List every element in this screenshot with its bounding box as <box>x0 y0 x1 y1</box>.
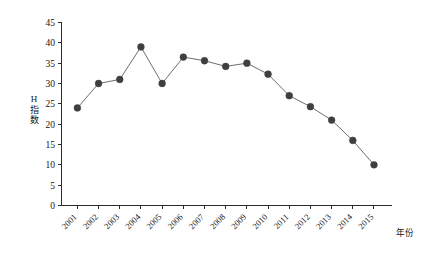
x-tick-label: 2012 <box>293 212 312 231</box>
x-tick-label: 2010 <box>250 212 269 231</box>
y-tick-label: 45 <box>46 18 56 28</box>
y-tick-label: 40 <box>46 38 56 48</box>
data-point-marker <box>371 161 378 168</box>
data-series <box>74 44 377 169</box>
x-tick-label: 2004 <box>123 211 143 231</box>
data-point-marker <box>222 63 229 70</box>
x-tick-label: 2011 <box>272 212 291 231</box>
data-point-marker <box>243 60 250 67</box>
data-point-marker <box>349 137 356 144</box>
data-point-marker <box>95 80 102 87</box>
x-tick-label: 2007 <box>187 211 207 231</box>
x-tick-label: 2001 <box>60 212 79 231</box>
y-tick-label: 15 <box>46 140 56 150</box>
data-point-marker <box>74 105 81 112</box>
x-tick-label: 2008 <box>208 212 227 231</box>
line-chart-plot: 051015202530354045 200120022003200420052… <box>0 0 432 258</box>
y-axis: 051015202530354045 <box>46 18 62 211</box>
y-tick-label: 5 <box>50 181 55 191</box>
y-tick-label: 0 <box>50 201 55 211</box>
data-point-marker <box>116 76 123 83</box>
x-tick-label: 2005 <box>144 212 163 231</box>
x-tick-label: 2014 <box>335 211 355 231</box>
chart-container: H 指 数 051015202530354045 200120022003200… <box>0 0 432 258</box>
y-tick-label: 20 <box>46 120 56 130</box>
data-point-marker <box>159 80 166 87</box>
x-tick-label: 2003 <box>102 212 121 231</box>
data-point-marker <box>201 57 208 64</box>
y-tick-label: 25 <box>46 99 56 109</box>
data-point-marker <box>265 71 272 78</box>
x-tick-label: 2009 <box>229 212 248 231</box>
y-tick-label: 35 <box>46 59 56 69</box>
data-point-marker <box>138 44 145 51</box>
data-point-marker <box>286 92 293 99</box>
x-axis: 2001200220032004200520062007200820092010… <box>60 206 392 232</box>
y-tick-label: 10 <box>46 160 56 170</box>
data-point-marker <box>328 117 335 124</box>
x-tick-label: 2006 <box>166 211 186 231</box>
x-axis-title: 年份 <box>396 227 414 238</box>
y-tick-label: 30 <box>46 79 56 89</box>
x-tick-label: 2002 <box>81 212 100 231</box>
data-point-marker <box>180 54 187 61</box>
x-tick-label: 2015 <box>356 212 375 231</box>
x-tick-label: 2013 <box>314 212 333 231</box>
data-point-marker <box>307 103 314 110</box>
